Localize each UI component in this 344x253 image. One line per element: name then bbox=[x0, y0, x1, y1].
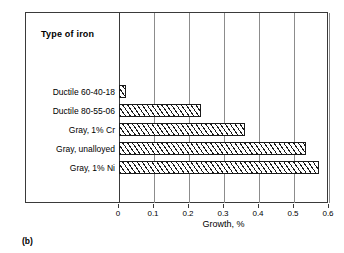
gridline-0.3 bbox=[224, 13, 225, 203]
bar bbox=[119, 123, 245, 136]
gridline-0.6 bbox=[329, 13, 330, 203]
x-tick-label: 0.3 bbox=[217, 209, 228, 218]
x-tick-label: 0.1 bbox=[147, 209, 158, 218]
x-tick bbox=[188, 204, 189, 208]
gridline-0.4 bbox=[259, 13, 260, 203]
x-tick-label: 0.6 bbox=[322, 209, 333, 218]
x-tick bbox=[328, 204, 329, 208]
x-tick bbox=[293, 204, 294, 208]
category-label: Ductile 60-40-18 bbox=[9, 87, 119, 97]
category-label: Ductile 80-55-06 bbox=[9, 106, 119, 116]
bar bbox=[119, 104, 201, 117]
category-label: Gray, 1% Ni bbox=[9, 163, 119, 173]
x-axis-title: Growth, % bbox=[118, 219, 329, 229]
x-tick bbox=[223, 204, 224, 208]
x-tick-label: 0.4 bbox=[252, 209, 263, 218]
category-label: Gray, 1% Cr bbox=[9, 125, 119, 135]
plot-area bbox=[119, 13, 329, 203]
bar bbox=[119, 85, 126, 98]
bar bbox=[119, 161, 319, 174]
x-tick bbox=[118, 204, 119, 208]
chart-frame: Type of iron Ductile 60-40-18Ductile 80-… bbox=[25, 12, 328, 203]
x-tick-label: 0 bbox=[116, 209, 120, 218]
category-label-axis: Ductile 60-40-18Ductile 80-55-06Gray, 1%… bbox=[26, 13, 119, 203]
gridline-0.5 bbox=[294, 13, 295, 203]
category-label: Gray, unalloyed bbox=[9, 144, 119, 154]
x-tick bbox=[258, 204, 259, 208]
x-tick bbox=[153, 204, 154, 208]
x-tick-label: 0.2 bbox=[182, 209, 193, 218]
x-tick-label: 0.5 bbox=[287, 209, 298, 218]
figure-caption: (b) bbox=[22, 236, 33, 246]
bar bbox=[119, 142, 306, 155]
